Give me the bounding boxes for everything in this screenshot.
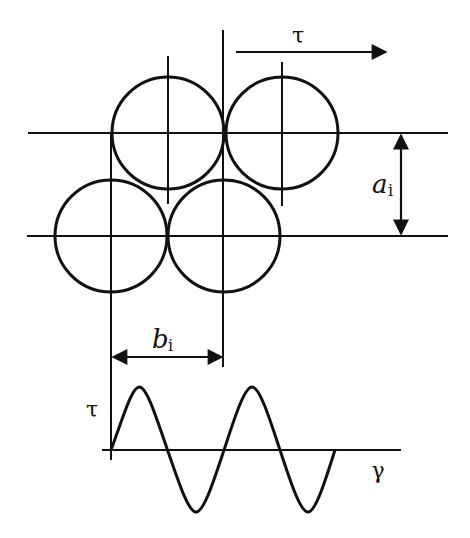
interatomic-spacing-subscript: i	[168, 336, 173, 355]
interlayer-distance-subscript: i	[388, 181, 393, 200]
stress-axis-label: τ	[86, 397, 98, 422]
interatomic-spacing-label: b	[152, 324, 169, 354]
strain-axis-label: γ	[371, 458, 384, 483]
interlayer-distance-label: a	[372, 169, 388, 199]
shear-model-diagram: τ a i b i τ γ	[0, 0, 470, 538]
shear-stress-label-top: τ	[292, 23, 304, 48]
